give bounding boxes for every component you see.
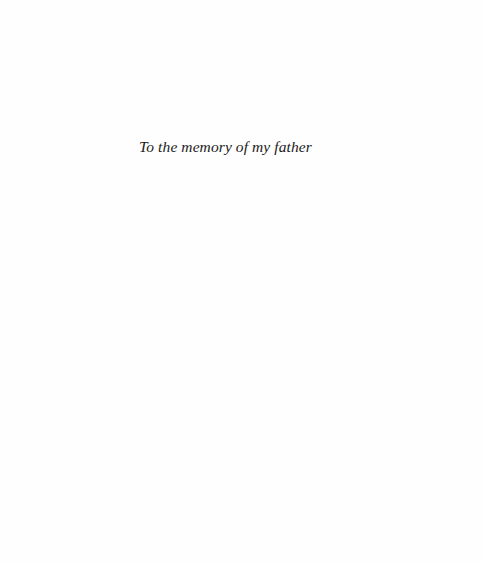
dedication-page: To the memory of my father xyxy=(0,0,484,564)
dedication-text: To the memory of my father xyxy=(139,138,312,156)
